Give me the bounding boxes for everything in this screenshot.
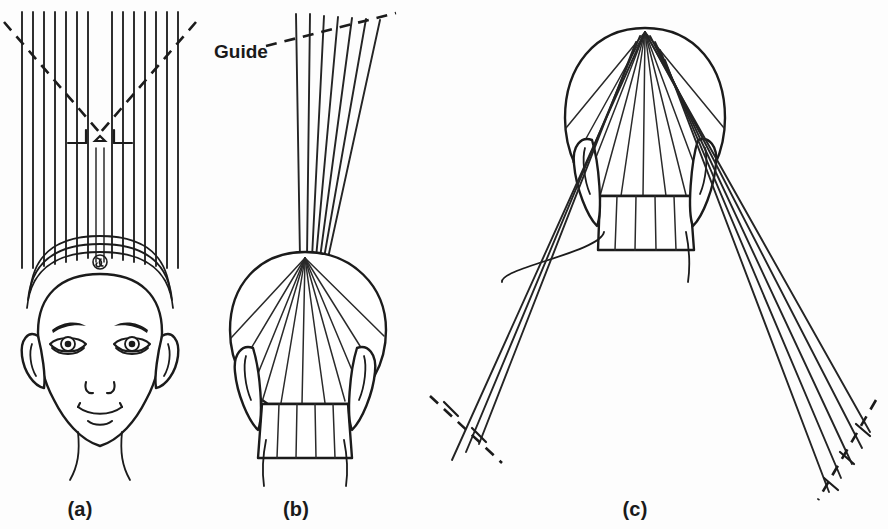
figure-root: (a) Guide <box>0 0 888 529</box>
panel-b-guide: Guide <box>214 13 396 62</box>
panel-a-face-outline <box>38 274 162 446</box>
panel-a-group: (a) <box>4 12 196 520</box>
haircut-diagram-svg: (a) Guide <box>0 0 888 529</box>
panel-b-strand-group <box>296 14 380 258</box>
guide-label: Guide <box>214 41 268 62</box>
panel-a-crown-swirl-icon <box>93 255 107 269</box>
panel-c-caption: (c) <box>622 498 647 520</box>
panel-b-caption: (b) <box>283 498 309 520</box>
panel-a-right-strand-group <box>112 12 178 268</box>
panel-a-caption: (a) <box>67 498 92 520</box>
panel-b-group: Guide <box>214 13 396 520</box>
panel-c-right-cut-guide <box>818 400 876 500</box>
panel-c-group: (c) <box>430 28 876 520</box>
panel-a-left-strand-group <box>22 12 88 268</box>
panel-c-nape-band <box>598 196 694 250</box>
panel-b-nape-band <box>258 404 352 458</box>
